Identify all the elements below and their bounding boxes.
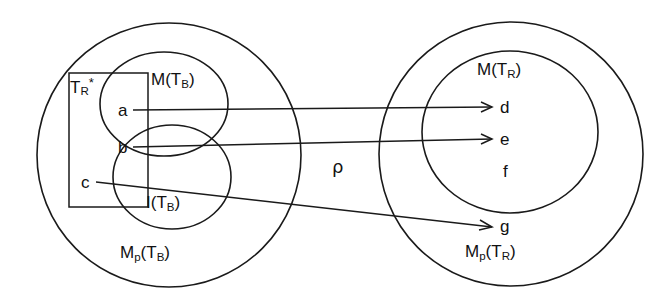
tr-star-base: T — [70, 78, 80, 97]
mapping-arrow-b-to-e — [133, 134, 492, 147]
left-lower-set-arg-sub: B — [167, 201, 175, 213]
relation-symbol-rho: ρ — [332, 158, 343, 176]
left-upper-set-label: M(TB) — [151, 71, 195, 90]
left-outer-set-base: M — [120, 243, 134, 262]
tr-star-subscript: R — [80, 85, 88, 97]
element-g: g — [500, 218, 509, 235]
tr-star-superscript: * — [89, 75, 94, 90]
right-inner-set-label: M(TR) — [477, 61, 521, 80]
left-lower-set-arg: T — [156, 193, 166, 212]
right-inner-set-arg: T — [497, 60, 507, 79]
left-outer-set-label: Mp(TB) — [120, 244, 170, 263]
element-b: b — [118, 139, 127, 156]
right-outer-set-close-paren: ) — [510, 242, 516, 261]
set-mapping-diagram: TR* M(TB) I(TB) Mp(TB) a b c ρ M(TR) Mp(… — [0, 0, 671, 304]
element-e: e — [500, 131, 509, 148]
left-lower-set-circle — [113, 125, 231, 229]
left-lower-set-label: I(TB) — [146, 194, 180, 213]
element-f: f — [503, 163, 508, 180]
right-outer-set-base: M — [465, 242, 479, 261]
right-outer-set-arg-sub: R — [502, 250, 510, 262]
left-upper-set-arg-sub: B — [181, 78, 189, 90]
right-inner-set-base: M — [477, 60, 491, 79]
right-inner-set-close-paren: ) — [516, 60, 522, 79]
mapping-arrow-a-to-d — [133, 102, 492, 112]
element-c: c — [81, 174, 90, 191]
element-a: a — [118, 102, 127, 119]
element-d: d — [500, 99, 509, 116]
diagram-canvas — [0, 0, 671, 304]
left-outer-set-arg: T — [146, 243, 156, 262]
left-upper-set-close-paren: ) — [189, 70, 195, 89]
tr-star-label: TR* — [70, 76, 94, 98]
left-lower-set-close-paren: ) — [175, 193, 181, 212]
right-inner-set-arg-sub: R — [507, 68, 515, 80]
left-outer-set-close-paren: ) — [164, 243, 170, 262]
right-outer-set-arg: T — [491, 242, 501, 261]
left-upper-set-arg: T — [171, 70, 181, 89]
right-outer-set-label: Mp(TR) — [465, 243, 516, 262]
left-upper-set-base: M — [151, 70, 165, 89]
